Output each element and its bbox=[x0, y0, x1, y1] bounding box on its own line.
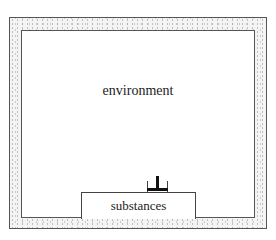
t-junction-stem-icon bbox=[156, 176, 159, 189]
environment-region: environment substances bbox=[21, 30, 255, 218]
substances-box: substances bbox=[81, 192, 196, 219]
environment-label: environment bbox=[22, 83, 254, 99]
